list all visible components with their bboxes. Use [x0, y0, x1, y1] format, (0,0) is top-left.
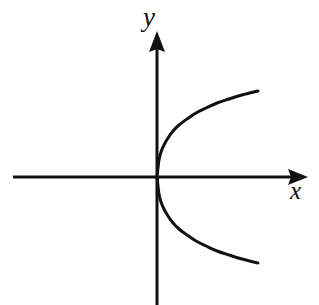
x-axis-label: x [290, 178, 301, 203]
y-axis-label: y [143, 4, 155, 31]
parabola-figure: y x [0, 0, 319, 305]
plot-canvas [0, 0, 319, 305]
